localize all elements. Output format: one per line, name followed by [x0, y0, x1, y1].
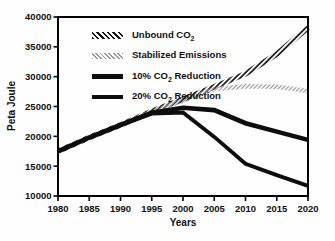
x-tick-label: 2010: [235, 203, 256, 214]
x-tick-label: 2000: [172, 203, 193, 214]
legend-item-20pct-co2-reduction: 20% CO2 Reduction: [92, 87, 227, 108]
y-tick-label: 20000: [25, 131, 51, 142]
legend-item-10pct-co2-reduction: 10% CO2 Reduction: [92, 66, 227, 87]
co2-emissions-chart-figure: 1000015000200002500030000350004000019801…: [0, 0, 335, 241]
x-axis-title: Years: [170, 217, 197, 228]
x-tick-label: 2020: [297, 203, 318, 214]
legend-label-20pct-co2-reduction: 20% CO2 Reduction: [132, 90, 221, 103]
unbound-co2-line-sample-icon: [92, 32, 123, 39]
x-tick-label: 1990: [110, 203, 131, 214]
y-tick-label: 15000: [25, 161, 51, 172]
x-tick-label: 2005: [204, 203, 226, 214]
y-tick-label: 35000: [25, 41, 51, 52]
y-tick-label: 40000: [25, 11, 51, 22]
legend-item-unbound-co2: Unbound CO2: [92, 25, 227, 46]
series-line-solid-medium: [58, 113, 308, 186]
chart-legend: Unbound CO2 Stabilized Emissions 10% CO2…: [92, 25, 227, 107]
y-tick-label: 30000: [25, 71, 51, 82]
y-axis-title: Peta Joule: [6, 81, 17, 131]
10pct-reduction-line-sample-icon: [92, 74, 123, 79]
stabilized-emissions-line-sample-icon: [92, 53, 123, 59]
legend-item-stabilized-emissions: Stabilized Emissions: [92, 46, 227, 67]
20pct-reduction-line-sample-icon: [92, 95, 123, 99]
y-tick-label: 10000: [25, 190, 51, 201]
x-tick-label: 1995: [141, 203, 163, 214]
y-tick-label: 25000: [25, 101, 51, 112]
legend-label-unbound-co2: Unbound CO2: [132, 29, 194, 42]
x-tick-label: 1980: [47, 203, 68, 214]
legend-label-10pct-co2-reduction: 10% CO2 Reduction: [132, 70, 221, 83]
legend-label-stabilized-emissions: Stabilized Emissions: [132, 49, 227, 62]
x-tick-label: 2015: [266, 203, 288, 214]
x-tick-label: 1985: [79, 203, 101, 214]
